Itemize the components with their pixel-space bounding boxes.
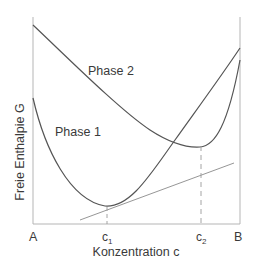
x-tick-a: A <box>29 230 38 244</box>
phase-2-label: Phase 2 <box>88 64 134 78</box>
x-tick-b: B <box>234 230 242 244</box>
phase-1-label: Phase 1 <box>55 125 101 139</box>
x-axis-label: Konzentration c <box>93 245 180 259</box>
free-enthalpy-diagram: Phase 2 Phase 1 Freie Enthalpie G A c1 c… <box>0 0 259 268</box>
x-tick-c1: c1 <box>102 230 113 246</box>
y-axis-label: Freie Enthalpie G <box>13 103 27 200</box>
common-tangent-line <box>80 163 234 220</box>
x-tick-c2: c2 <box>196 230 207 246</box>
